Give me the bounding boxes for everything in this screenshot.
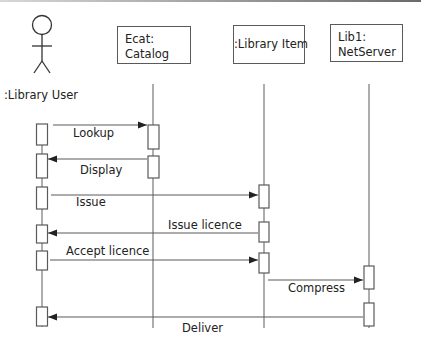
- object-netserver-line2: NetServer: [338, 45, 396, 59]
- activation-server-2: [364, 303, 374, 326]
- message-label-issue-licence: Issue licence: [168, 218, 242, 232]
- object-netserver: Lib1:NetServer: [330, 24, 403, 62]
- object-library-item: :Library Item: [233, 25, 305, 64]
- actor-label: :Library User: [4, 88, 78, 102]
- object-ecat-line1: Ecat:: [125, 32, 154, 46]
- object-ecat-line2: Catalog: [125, 47, 169, 61]
- activation-user-3: [37, 187, 48, 209]
- object-netserver-line1: Lib1:: [338, 30, 366, 44]
- object-library-item-label: :Library Item: [234, 37, 304, 52]
- activation-ecat-1: [148, 125, 159, 149]
- activation-user-5: [37, 251, 48, 270]
- message-label-lookup: Lookup: [73, 126, 114, 140]
- activation-user-1: [37, 124, 48, 145]
- object-ecat-catalog: Ecat:Catalog: [117, 26, 191, 64]
- message-label-issue: Issue: [76, 195, 106, 209]
- message-label-compress: Compress: [288, 281, 345, 295]
- message-label-display: Display: [80, 163, 122, 177]
- message-label-accept-licence: Accept licence: [66, 244, 149, 258]
- activation-server-1: [364, 266, 374, 289]
- message-label-deliver: Deliver: [182, 321, 223, 335]
- activation-item-3: [259, 253, 269, 273]
- activation-ecat-2: [148, 156, 159, 178]
- activation-user-4: [37, 225, 48, 243]
- activation-user-2: [37, 154, 48, 178]
- activation-item-1: [259, 185, 269, 208]
- activation-user-6: [37, 307, 48, 326]
- actor-icon: [32, 16, 52, 74]
- activation-item-2: [259, 222, 269, 242]
